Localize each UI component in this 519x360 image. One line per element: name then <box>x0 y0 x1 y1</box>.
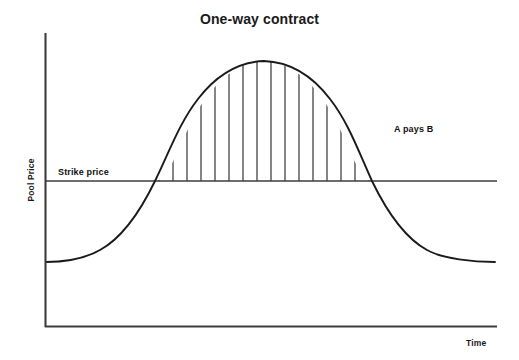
strike-price-label: Strike price <box>58 167 109 177</box>
chart-figure: One-way contract <box>0 0 519 360</box>
hatch-fill-a-pays-b <box>150 50 380 185</box>
x-axis-label: Time <box>466 338 486 348</box>
plot-area <box>0 0 519 360</box>
y-axis-label: Pool Price <box>26 148 36 212</box>
a-pays-b-label: A pays B <box>394 124 433 134</box>
